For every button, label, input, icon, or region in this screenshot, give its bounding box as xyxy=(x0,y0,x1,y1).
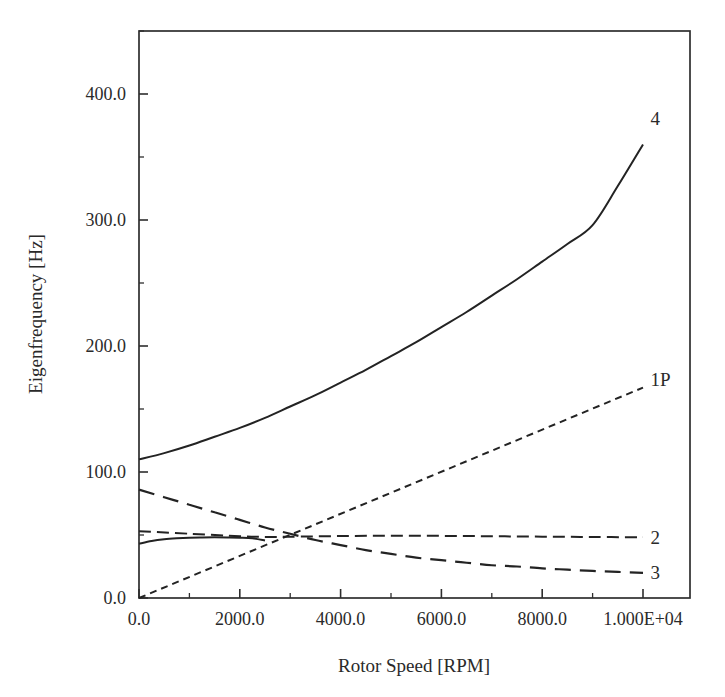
curve-label-2: 2 xyxy=(651,527,661,548)
x-axis-title: Rotor Speed [RPM] xyxy=(338,655,490,676)
curve-label-1p: 1P xyxy=(651,369,671,390)
x-tick-label: 1.000E+04 xyxy=(603,609,683,629)
x-tick-label: 2000.0 xyxy=(215,609,265,629)
y-axis-title: Eigenfrequency [Hz] xyxy=(25,234,46,394)
curve-label-4: 4 xyxy=(651,108,661,129)
y-tick-label: 0.0 xyxy=(104,588,127,608)
x-tick-label: 6000.0 xyxy=(417,609,467,629)
x-tick-label: 8000.0 xyxy=(517,609,567,629)
y-tick-label: 200.0 xyxy=(86,336,127,356)
curve-label-3: 3 xyxy=(651,562,661,583)
chart-page: 0.02000.04000.06000.08000.01.000E+04 0.0… xyxy=(0,0,725,697)
x-tick-label: 0.0 xyxy=(128,609,151,629)
y-tick-label: 400.0 xyxy=(86,84,127,104)
y-tick-label: 300.0 xyxy=(86,210,127,230)
y-tick-label: 100.0 xyxy=(86,462,127,482)
x-tick-label: 4000.0 xyxy=(316,609,366,629)
campbell-diagram: 0.02000.04000.06000.08000.01.000E+04 0.0… xyxy=(0,0,725,697)
